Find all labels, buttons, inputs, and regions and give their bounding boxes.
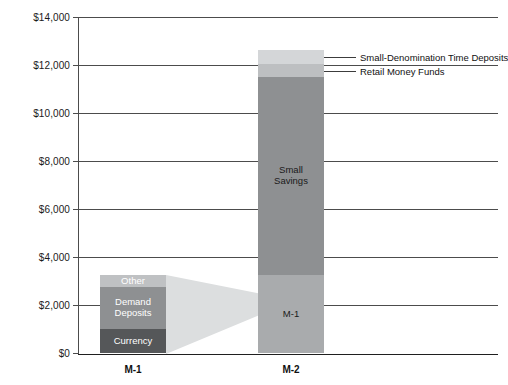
segment-m2-small-savings[interactable]: Small Savings <box>258 77 324 275</box>
segment-label-m2-m1: M-1 <box>283 309 299 320</box>
segment-label-small-savings: Small Savings <box>274 165 308 186</box>
ytick-label-2000: $2,000 <box>39 300 70 311</box>
ytick-4000 <box>73 257 78 258</box>
segment-label-demand-deposits: Demand Deposits <box>115 297 152 318</box>
segment-label-other: Other <box>121 276 145 287</box>
ytick-10000 <box>73 113 78 114</box>
expansion-funnel <box>166 17 262 354</box>
segment-m2-retail-money-funds[interactable] <box>258 64 324 77</box>
ytick-6000 <box>73 209 78 210</box>
segment-m2-small-denomination-time-deposits[interactable] <box>258 50 324 64</box>
callout-leader-retail-money-funds <box>324 71 356 72</box>
ytick-label-10000: $10,000 <box>33 108 70 119</box>
y-axis-line <box>78 17 79 354</box>
ytick-label-0: $0 <box>59 348 70 359</box>
ytick-label-8000: $8,000 <box>39 156 70 167</box>
bar-m1: Other Demand Deposits Currency <box>100 275 166 353</box>
ytick-8000 <box>73 161 78 162</box>
segment-m1-other[interactable]: Other <box>100 275 166 287</box>
ytick-12000 <box>73 65 78 66</box>
bar-m2: Small Savings M-1 <box>258 50 324 353</box>
segment-label-currency: Currency <box>114 336 153 347</box>
callout-label-small-denomination: Small-Denomination Time Deposits <box>360 52 508 63</box>
ytick-label-4000: $4,000 <box>39 252 70 263</box>
xtick-label-m1: M-1 <box>124 364 141 375</box>
plot-area: $14,000 $12,000 $10,000 $8,000 $6,000 $4… <box>78 17 498 353</box>
ytick-label-14000: $14,000 <box>33 12 70 23</box>
callout-label-retail-money-funds: Retail Money Funds <box>360 66 444 77</box>
segment-m1-demand-deposits[interactable]: Demand Deposits <box>100 287 166 329</box>
ytick-label-12000: $12,000 <box>33 60 70 71</box>
callout-leader-small-denomination <box>324 57 356 58</box>
segment-m1-currency[interactable]: Currency <box>100 329 166 353</box>
xtick-label-m2: M-2 <box>282 364 299 375</box>
ytick-14000 <box>73 17 78 18</box>
segment-m2-m1[interactable]: M-1 <box>258 275 324 353</box>
ytick-2000 <box>73 305 78 306</box>
ytick-label-6000: $6,000 <box>39 204 70 215</box>
x-axis-line <box>78 354 498 355</box>
gridline-14000 <box>78 17 498 18</box>
y-axis-title-clipped: Amount <box>0 0 12 385</box>
